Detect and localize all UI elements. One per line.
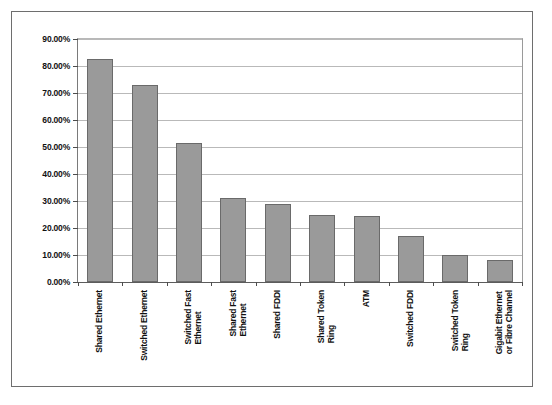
bar-slot [389,39,433,282]
x-axis-tick [344,282,345,286]
x-axis-label-line: Shared Ethernet [95,290,105,353]
x-axis-tick [256,282,257,286]
y-axis-label: 90.00% [42,34,70,44]
x-axis-label-line: Shared FDDI [273,290,283,339]
y-axis-label: 70.00% [42,88,70,98]
bar[interactable] [487,260,513,282]
bar-slot [478,39,522,282]
x-axis-tick [522,282,523,286]
y-axis-label: 30.00% [42,196,70,206]
x-axis-label: Switched FDDI [406,290,416,347]
y-axis-label: 10.00% [42,250,70,260]
bar-slot [344,39,388,282]
bar[interactable] [398,236,424,282]
x-axis-tick [122,282,123,286]
x-axis-label: ATM [362,290,372,307]
x-axis-tick [389,282,390,286]
bar[interactable] [220,198,246,283]
x-axis-label: Shared FDDI [273,290,283,339]
x-axis-tick [478,282,479,286]
plot-area: 0.00%10.00%20.00%30.00%40.00%50.00%60.00… [77,38,523,283]
bar[interactable] [265,204,291,282]
x-axis-label-line: or Fibre Channel [505,290,515,354]
x-axis-label: Switched FastEthernet [184,290,203,345]
x-axis-tick [300,282,301,286]
x-axis-tick [433,282,434,286]
y-axis-label: 60.00% [42,115,70,125]
x-axis-label: Shared TokenRing [317,290,336,343]
bar-slot [433,39,477,282]
x-axis-label-line: Ring [327,290,337,343]
x-axis-label-line: Ethernet [194,290,204,345]
x-axis-label-line: ATM [362,290,372,307]
bar[interactable] [132,85,158,282]
y-axis-label: 0.00% [47,277,70,287]
bar-slot [211,39,255,282]
x-axis-label: Shared Ethernet [95,290,105,353]
x-axis-tick [78,282,79,286]
y-axis-label: 40.00% [42,169,70,179]
bar-slot [167,39,211,282]
bar-slot [78,39,122,282]
x-axis-label-line: Ethernet [238,290,248,336]
y-axis-label: 80.00% [42,61,70,71]
x-axis-label-line: Switched Token [451,290,461,351]
bar-slot [300,39,344,282]
bar[interactable] [309,215,335,282]
x-axis-label: Gigabit Ethernetor Fibre Channel [495,290,514,354]
bar-series [78,39,522,282]
x-axis-label: Switched Ethernet [140,290,150,361]
y-axis-label: 20.00% [42,223,70,233]
x-axis-tick [167,282,168,286]
chart-frame: 0.00%10.00%20.00%30.00%40.00%50.00%60.00… [11,11,533,387]
x-axis-label-line: Ring [460,290,470,351]
bar[interactable] [442,255,468,282]
x-axis-label-line: Switched FDDI [406,290,416,347]
x-axis-label-line: Shared Fast [229,290,239,336]
y-axis-label: 50.00% [42,142,70,152]
x-axis-label: Shared FastEthernet [229,290,248,336]
bar[interactable] [176,143,202,282]
bar[interactable] [87,59,113,282]
bar-slot [256,39,300,282]
x-axis-label: Switched TokenRing [451,290,470,351]
x-axis-tick [211,282,212,286]
bar[interactable] [354,216,380,282]
x-axis-label-line: Switched Ethernet [140,290,150,361]
bar-slot [122,39,166,282]
